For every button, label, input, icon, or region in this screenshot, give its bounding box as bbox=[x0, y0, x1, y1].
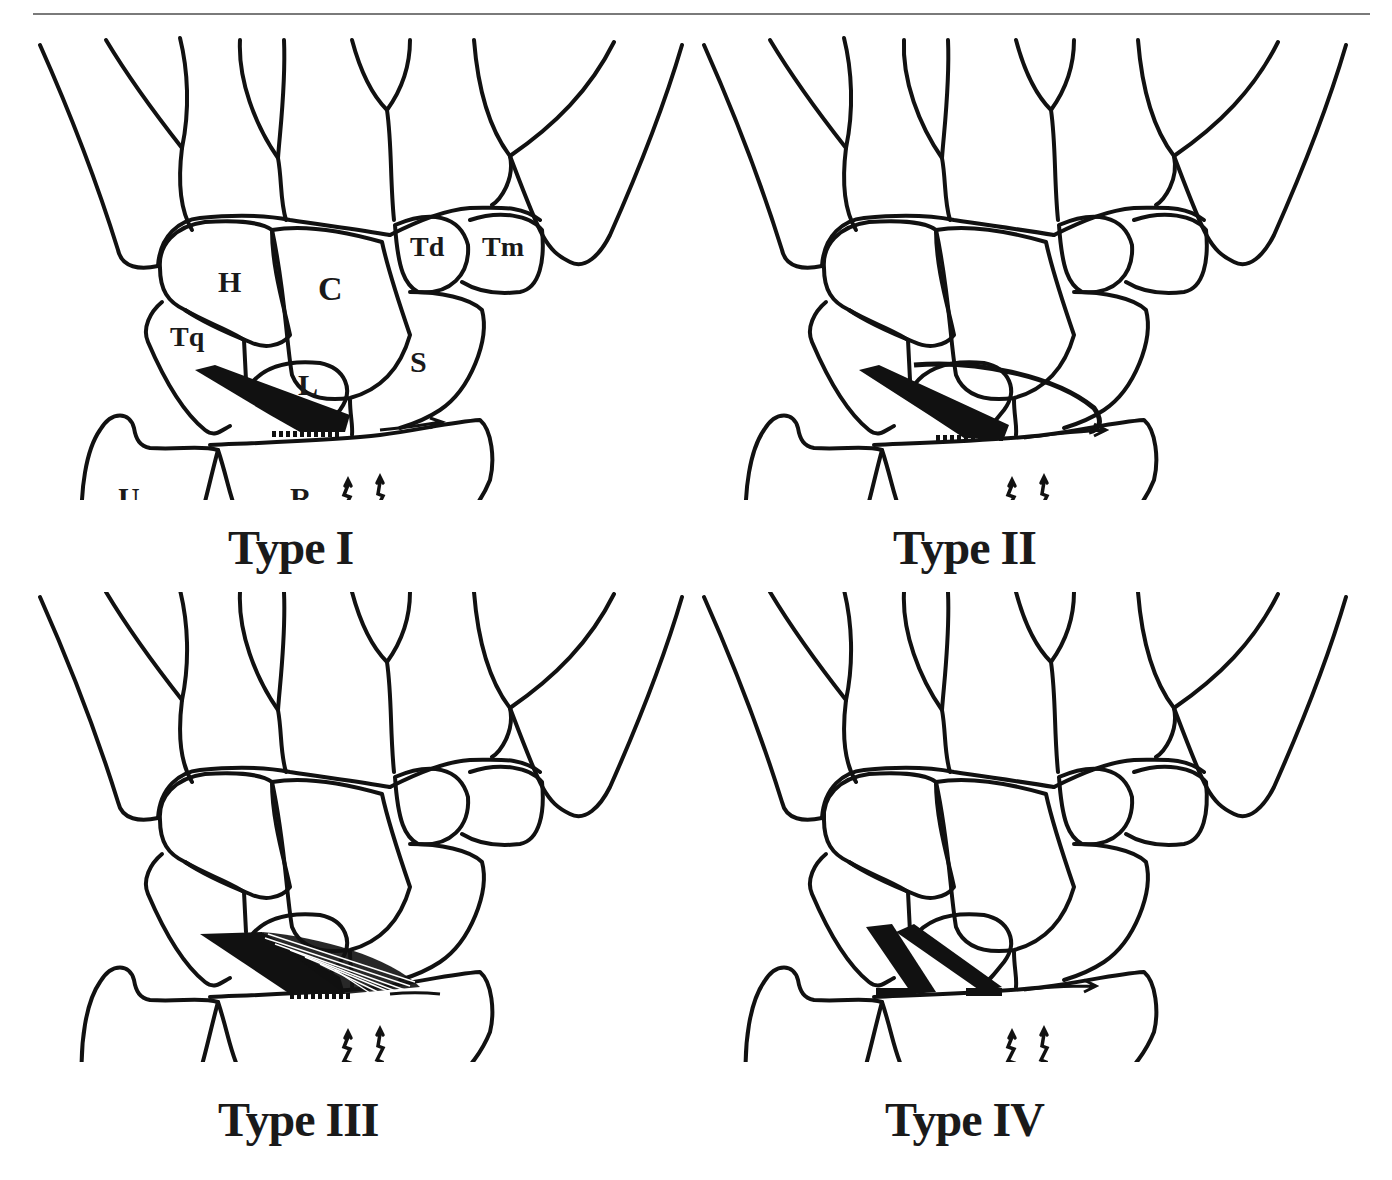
label-scaphoid: S bbox=[410, 345, 427, 378]
label-ulna: U bbox=[118, 481, 140, 500]
wrist-diagram-type-iii bbox=[0, 592, 696, 1062]
caption-type-iv: Type IV bbox=[885, 1092, 1044, 1147]
label-hamate: H bbox=[218, 265, 241, 298]
label-trapezoid: Td bbox=[410, 231, 445, 262]
caption-type-ii: Type II bbox=[893, 520, 1036, 575]
panel-type-iii: Type III bbox=[0, 592, 696, 1172]
caption-type-i: Type I bbox=[228, 520, 353, 575]
panel-type-ii: Type II bbox=[690, 30, 1386, 610]
panel-type-iv: Type IV bbox=[690, 592, 1386, 1172]
top-rule-divider bbox=[33, 13, 1370, 15]
label-lunate: L bbox=[298, 368, 318, 401]
label-capitate: C bbox=[318, 270, 343, 307]
wrist-diagram-type-iv bbox=[690, 592, 1386, 1062]
label-trapezium: Tm bbox=[482, 231, 524, 262]
panel-type-i: H C Td Tm Tq L S U R Type I bbox=[0, 30, 696, 610]
wrist-diagram-type-i: H C Td Tm Tq L S U R bbox=[0, 30, 696, 500]
wrist-diagram-type-ii bbox=[690, 30, 1386, 500]
label-radius: R bbox=[290, 481, 312, 500]
label-triquetrum: Tq bbox=[170, 321, 205, 352]
caption-type-iii: Type III bbox=[218, 1092, 379, 1147]
